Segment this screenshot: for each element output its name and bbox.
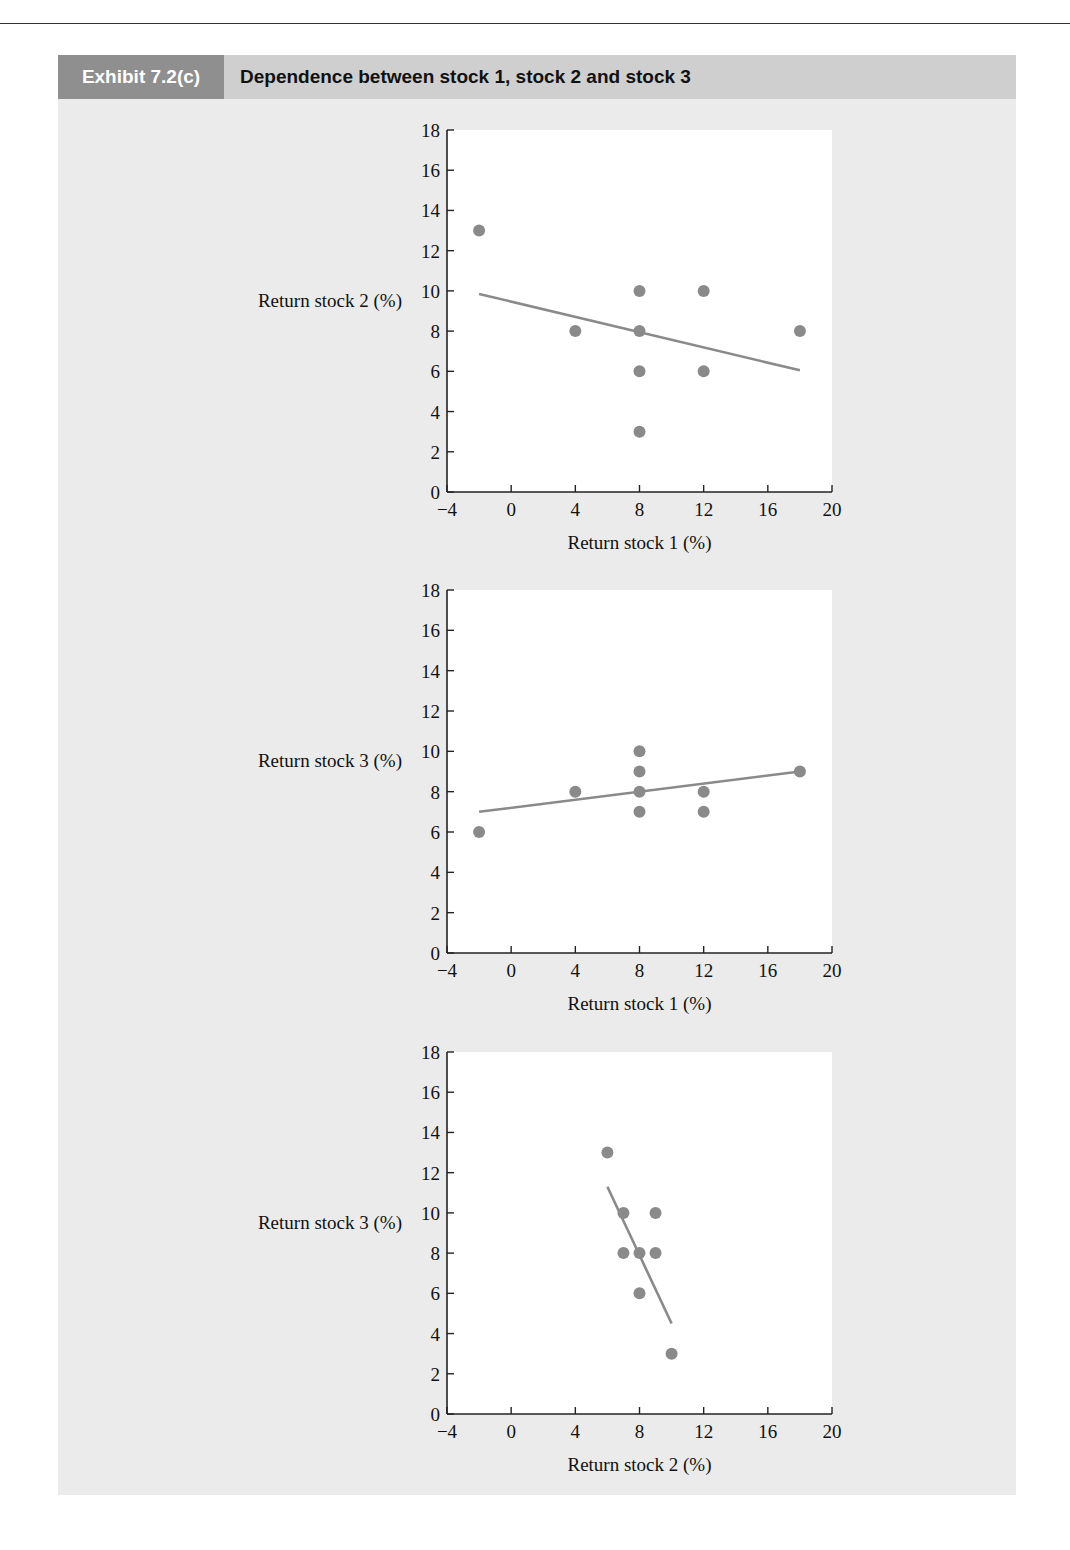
y-tick-label: 14 [421, 200, 441, 221]
y-tick-label: 16 [421, 1082, 440, 1103]
data-point [617, 1247, 629, 1259]
y-tick-label: 16 [421, 160, 440, 181]
data-point [698, 365, 710, 377]
y-tick-label: 12 [421, 701, 440, 722]
x-tick-label: 8 [635, 499, 645, 520]
y-tick-label: 10 [421, 1203, 440, 1224]
y-tick-label: 8 [431, 321, 441, 342]
scatter-chart-1: 024681012141618−4048121620Return stock 1… [258, 120, 842, 554]
x-tick-label: 20 [823, 499, 842, 520]
data-point [698, 786, 710, 798]
x-tick-label: 16 [758, 960, 777, 981]
data-point [634, 1247, 646, 1259]
x-tick-label: 16 [758, 1421, 777, 1442]
scatter-chart-2: 024681012141618−4048121620Return stock 1… [258, 580, 842, 1015]
x-axis-title: Return stock 2 (%) [567, 1454, 711, 1476]
x-tick-label: 4 [571, 499, 581, 520]
y-tick-label: 6 [431, 361, 441, 382]
y-tick-label: 6 [431, 1283, 441, 1304]
data-point [634, 766, 646, 778]
y-tick-label: 8 [431, 782, 441, 803]
y-tick-label: 2 [431, 903, 441, 924]
y-tick-label: 12 [421, 1163, 440, 1184]
y-tick-label: 18 [421, 1042, 440, 1063]
y-tick-label: 14 [421, 1122, 441, 1143]
y-axis-title: Return stock 2 (%) [258, 290, 402, 312]
x-tick-label: 4 [571, 1421, 581, 1442]
x-tick-label: 20 [823, 960, 842, 981]
x-tick-label: 0 [506, 1421, 516, 1442]
plot-area [447, 130, 832, 492]
x-tick-label: 4 [571, 960, 581, 981]
data-point [698, 806, 710, 818]
plot-area [447, 1052, 832, 1414]
data-point [634, 786, 646, 798]
data-point [634, 365, 646, 377]
y-tick-label: 8 [431, 1243, 441, 1264]
data-point [666, 1348, 678, 1360]
data-point [650, 1247, 662, 1259]
x-tick-label: 8 [635, 1421, 645, 1442]
x-tick-label: −4 [437, 499, 458, 520]
x-tick-label: 8 [635, 960, 645, 981]
data-point [617, 1207, 629, 1219]
y-tick-label: 18 [421, 580, 440, 601]
x-tick-label: 12 [694, 960, 713, 981]
y-tick-label: 4 [431, 862, 441, 883]
scatter-chart-3: 024681012141618−4048121620Return stock 2… [258, 1042, 842, 1476]
y-axis-title: Return stock 3 (%) [258, 1212, 402, 1234]
y-tick-label: 6 [431, 822, 441, 843]
x-axis-title: Return stock 1 (%) [567, 993, 711, 1015]
y-tick-label: 16 [421, 620, 440, 641]
x-tick-label: 12 [694, 1421, 713, 1442]
x-tick-label: −4 [437, 960, 458, 981]
x-axis-title: Return stock 1 (%) [567, 532, 711, 554]
y-tick-label: 4 [431, 402, 441, 423]
data-point [794, 766, 806, 778]
x-tick-label: −4 [437, 1421, 458, 1442]
y-tick-label: 12 [421, 241, 440, 262]
data-point [634, 745, 646, 757]
y-tick-label: 2 [431, 442, 441, 463]
y-tick-label: 14 [421, 661, 441, 682]
data-point [473, 826, 485, 838]
y-tick-label: 18 [421, 120, 440, 141]
data-point [473, 225, 485, 237]
data-point [634, 1287, 646, 1299]
x-tick-label: 16 [758, 499, 777, 520]
x-tick-label: 12 [694, 499, 713, 520]
y-tick-label: 2 [431, 1364, 441, 1385]
x-tick-label: 20 [823, 1421, 842, 1442]
y-tick-label: 4 [431, 1324, 441, 1345]
data-point [794, 325, 806, 337]
data-point [634, 806, 646, 818]
x-tick-label: 0 [506, 499, 516, 520]
data-point [569, 786, 581, 798]
data-point [634, 325, 646, 337]
y-axis-title: Return stock 3 (%) [258, 750, 402, 772]
data-point [569, 325, 581, 337]
data-point [601, 1147, 613, 1159]
data-point [650, 1207, 662, 1219]
scatter-charts: 024681012141618−4048121620Return stock 1… [0, 0, 1070, 1550]
x-tick-label: 0 [506, 960, 516, 981]
data-point [634, 285, 646, 297]
data-point [698, 285, 710, 297]
y-tick-label: 10 [421, 741, 440, 762]
data-point [634, 426, 646, 438]
y-tick-label: 10 [421, 281, 440, 302]
